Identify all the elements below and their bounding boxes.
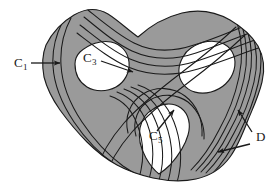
label-c3: C 3	[83, 50, 97, 67]
label-c1-base: C	[14, 55, 23, 70]
arrow-c5	[157, 110, 174, 131]
label-c3-base: C	[83, 50, 92, 65]
label-d-base: D	[256, 129, 265, 144]
figure-container: C 1 C 3 C 5 D	[0, 0, 278, 192]
label-c1-subscript: 1	[23, 62, 28, 72]
label-c1: C 1	[14, 55, 28, 72]
label-c5-base: C	[149, 128, 158, 143]
label-c3-subscript: 3	[92, 57, 97, 67]
topology-surface-figure: C 1 C 3 C 5 D	[0, 0, 278, 192]
label-d: D	[256, 129, 265, 144]
label-c5: C 5	[149, 128, 163, 145]
label-c5-subscript: 5	[158, 135, 163, 145]
arrow-c3	[101, 61, 133, 72]
